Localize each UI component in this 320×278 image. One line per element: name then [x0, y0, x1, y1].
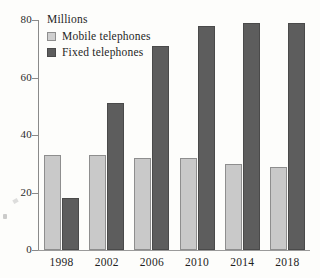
y-tick-label-wrap: 80	[0, 14, 32, 25]
bar-mobile-2006	[134, 158, 151, 250]
y-tick-label-wrap: 0	[0, 244, 32, 255]
y-tick-label-wrap: 20	[0, 187, 32, 198]
bar-group	[129, 20, 174, 250]
x-tick-label: 2018	[265, 256, 310, 268]
bar-mobile-2014	[225, 164, 242, 250]
y-tick-mark	[32, 135, 38, 136]
y-tick-label: 20	[6, 187, 32, 198]
bar-group	[84, 20, 129, 250]
x-axis-line	[38, 250, 310, 251]
bar-fixed-1998	[62, 198, 79, 250]
y-tick-label-wrap: 60	[0, 72, 32, 83]
scan-artifact-speck	[3, 214, 7, 219]
x-tick-label: 1998	[39, 256, 84, 268]
y-tick-mark	[32, 250, 38, 251]
bar-chart: 020406080 Millions Mobile telephones Fix…	[0, 0, 320, 278]
y-tick-label: 60	[6, 72, 32, 83]
x-tick-label: 2014	[220, 256, 265, 268]
bar-group	[220, 20, 265, 250]
scan-artifact-mark	[12, 198, 18, 204]
bar-mobile-2010	[180, 158, 197, 250]
y-tick-label-wrap: 40	[0, 129, 32, 140]
bar-mobile-2018	[270, 167, 287, 250]
bar-group	[265, 20, 310, 250]
y-tick-label: 40	[6, 129, 32, 140]
y-tick-label: 0	[6, 244, 32, 255]
y-tick-mark	[32, 78, 38, 79]
bar-fixed-2018	[288, 23, 305, 250]
bar-fixed-2010	[198, 26, 215, 250]
bar-group	[39, 20, 84, 250]
x-tick-label: 2006	[129, 256, 174, 268]
y-tick-mark	[32, 20, 38, 21]
bar-mobile-1998	[44, 155, 61, 250]
bar-group	[175, 20, 220, 250]
bar-fixed-2014	[243, 23, 260, 250]
y-tick-label: 80	[6, 14, 32, 25]
bar-mobile-2002	[89, 155, 106, 250]
bar-fixed-2002	[107, 103, 124, 250]
plot-area	[39, 20, 310, 250]
y-tick-mark	[32, 193, 38, 194]
bar-fixed-2006	[152, 46, 169, 250]
x-tick-label: 2010	[175, 256, 220, 268]
x-tick-label: 2002	[84, 256, 129, 268]
